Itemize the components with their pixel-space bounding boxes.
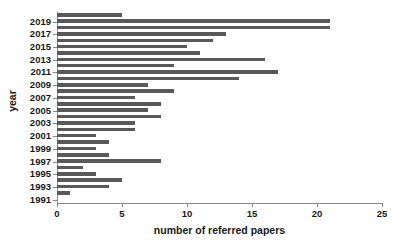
y-tick-mark [53, 34, 57, 35]
x-tick-mark [57, 203, 58, 207]
x-tick-mark [252, 203, 253, 207]
y-tick-label: 2015 [5, 42, 51, 52]
bar [57, 51, 200, 55]
y-tick-label: 1991 [5, 195, 51, 205]
y-tick-mark [53, 60, 57, 61]
y-tick-label: 2011 [5, 67, 51, 77]
bar [57, 58, 265, 62]
bar [57, 159, 161, 163]
bar [57, 115, 161, 119]
bar [57, 147, 96, 151]
y-tick-mark [53, 162, 57, 163]
y-tick-mark [53, 22, 57, 23]
y-tick-mark [53, 174, 57, 175]
bar [57, 191, 70, 195]
y-tick-label: 2019 [5, 17, 51, 27]
x-axis-title: number of referred papers [57, 224, 382, 236]
y-tick-mark [53, 111, 57, 112]
bar [57, 89, 174, 93]
x-tick-label: 15 [232, 208, 272, 219]
bar [57, 140, 109, 144]
bar [57, 64, 174, 68]
y-tick-label: 2001 [5, 131, 51, 141]
y-tick-mark [53, 200, 57, 201]
bar-row [57, 196, 382, 202]
bar-chart: 0510152025 20192017201520132011200920072… [0, 0, 400, 249]
x-tick-mark [317, 203, 318, 207]
y-tick-label: 1997 [5, 157, 51, 167]
bar [57, 13, 122, 17]
bar [57, 108, 148, 112]
bar [57, 83, 148, 87]
x-tick-label: 25 [362, 208, 400, 219]
y-tick-label: 1993 [5, 182, 51, 192]
y-tick-mark [53, 98, 57, 99]
bar [57, 166, 83, 170]
bar-series [57, 12, 382, 203]
bar [57, 153, 109, 157]
bar [57, 32, 226, 36]
bar [57, 70, 278, 74]
bar [57, 77, 239, 81]
x-tick-mark [382, 203, 383, 207]
bar [57, 39, 213, 43]
x-tick-mark [187, 203, 188, 207]
y-tick-label: 2013 [5, 55, 51, 65]
y-tick-mark [53, 123, 57, 124]
bar [57, 134, 96, 138]
y-tick-mark [53, 72, 57, 73]
x-tick-mark [122, 203, 123, 207]
x-tick-label: 10 [167, 208, 207, 219]
x-tick-label: 20 [297, 208, 337, 219]
bar [57, 185, 109, 189]
y-tick-label: 1995 [5, 169, 51, 179]
bar [57, 45, 187, 49]
y-tick-mark [53, 187, 57, 188]
y-axis-title: year [6, 77, 18, 125]
bar [57, 96, 135, 100]
bar [57, 121, 135, 125]
x-tick-label: 5 [102, 208, 142, 219]
x-tick-label: 0 [37, 208, 77, 219]
y-tick-label: 2017 [5, 29, 51, 39]
y-tick-label: 1999 [5, 144, 51, 154]
y-tick-mark [53, 47, 57, 48]
y-tick-mark [53, 85, 57, 86]
bar [57, 172, 96, 176]
bar [57, 26, 330, 30]
y-tick-mark [53, 149, 57, 150]
bar [57, 19, 330, 23]
bar [57, 102, 161, 106]
x-axis-line [57, 203, 382, 204]
bar [57, 178, 122, 182]
bar [57, 128, 135, 132]
y-tick-mark [53, 136, 57, 137]
